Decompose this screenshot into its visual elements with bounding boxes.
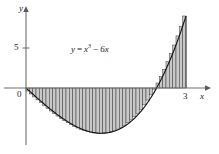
riemann-rectangle	[183, 16, 186, 88]
riemann-rectangle	[93, 88, 96, 133]
x-tick-label-3: 3	[183, 92, 188, 101]
riemann-rectangle	[83, 88, 86, 131]
equation-minus: −	[93, 44, 98, 54]
riemann-rectangle	[99, 88, 102, 133]
riemann-rectangle	[96, 88, 99, 133]
equation-exponent: 3	[88, 43, 91, 49]
riemann-rectangle	[89, 88, 92, 132]
figure-container: y x 5 0 3 y=x3−6x	[0, 0, 219, 154]
riemann-rectangle	[59, 88, 62, 118]
riemann-rectangle	[136, 88, 139, 113]
riemann-rectangle	[139, 88, 142, 109]
riemann-rectangle	[79, 88, 82, 129]
riemann-rectangle	[86, 88, 89, 132]
x-axis-label: x	[200, 92, 204, 101]
curve-equation-label: y=x3−6x	[71, 43, 109, 54]
riemann-rectangle	[133, 88, 136, 117]
riemann-rectangles	[26, 16, 186, 133]
x-axis-arrow-icon	[205, 85, 211, 90]
riemann-rectangle	[76, 88, 79, 128]
equation-lhs: y	[71, 44, 75, 54]
riemann-rectangle	[129, 88, 132, 120]
riemann-rectangle	[113, 88, 116, 131]
equation-equals: =	[77, 44, 82, 54]
riemann-rectangle	[126, 88, 129, 123]
riemann-rectangle	[69, 88, 72, 125]
riemann-rectangle	[119, 88, 122, 127]
riemann-rectangle	[109, 88, 112, 132]
y-tick-label-5: 5	[14, 43, 19, 52]
riemann-rectangle	[73, 88, 76, 126]
riemann-rectangle	[106, 88, 109, 132]
riemann-rectangle	[149, 88, 152, 95]
riemann-rectangle	[53, 88, 56, 114]
riemann-rectangle	[66, 88, 69, 123]
origin-label: 0	[17, 90, 22, 99]
riemann-rectangle	[143, 88, 146, 105]
riemann-sum-plot	[0, 0, 219, 154]
riemann-rectangle	[103, 88, 106, 133]
riemann-rectangle	[56, 88, 59, 116]
y-axis-label: y	[19, 4, 23, 13]
riemann-rectangle	[123, 88, 126, 125]
riemann-rectangle	[49, 88, 52, 111]
riemann-rectangle	[146, 88, 149, 100]
y-axis-arrow-icon	[23, 6, 28, 12]
equation-term: 6x	[100, 44, 109, 54]
riemann-rectangle	[116, 88, 119, 129]
riemann-rectangle	[63, 88, 66, 121]
